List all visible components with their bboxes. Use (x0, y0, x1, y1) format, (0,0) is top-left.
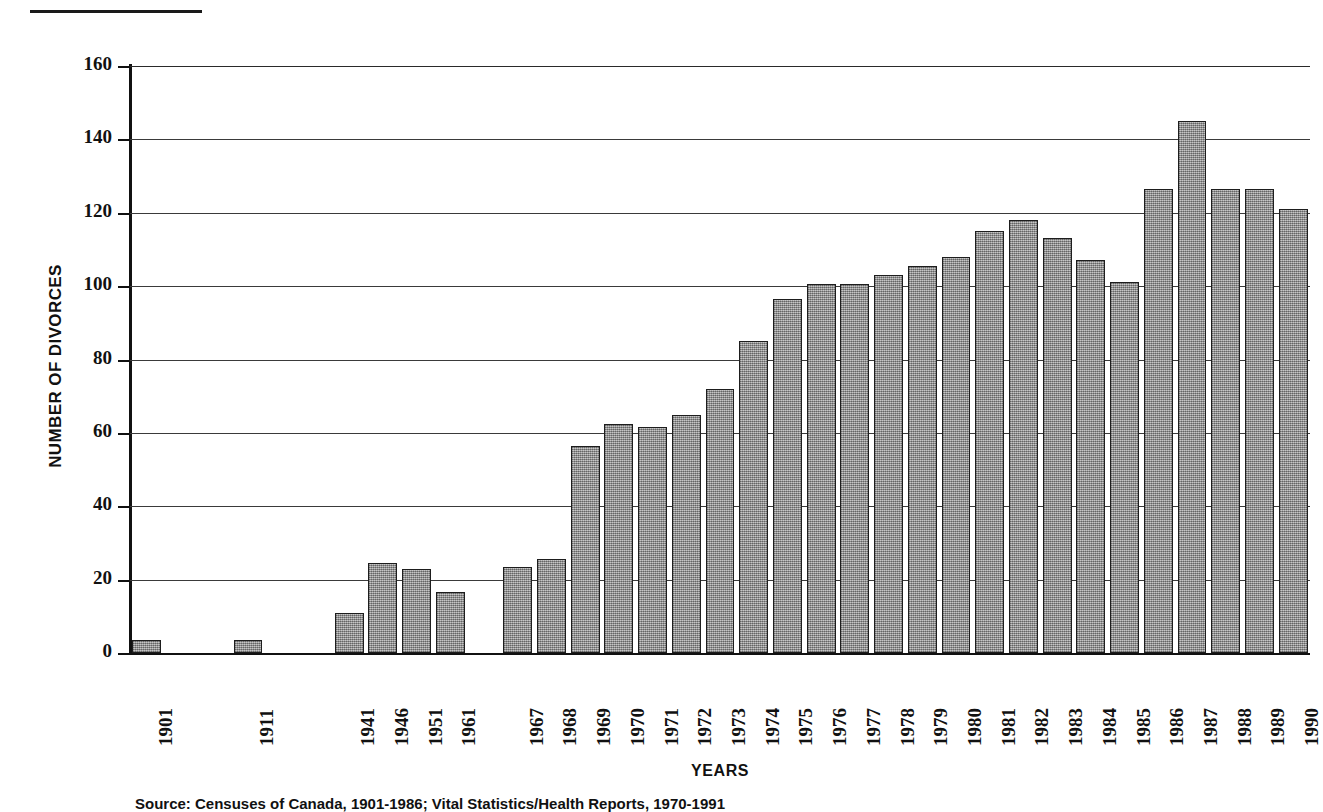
plot-area: 020406080100120140160 (130, 66, 1310, 653)
bar-1987 (1178, 121, 1207, 653)
x-tick-label-1941: 1941 (357, 654, 379, 746)
y-tick-120 (118, 213, 130, 215)
x-tick-label-1911: 1911 (256, 654, 278, 746)
x-tick-label-1901: 1901 (155, 654, 177, 746)
bar-1980 (942, 257, 971, 653)
x-tick-label-1967: 1967 (526, 654, 548, 746)
x-tick-label-1988: 1988 (1234, 654, 1256, 746)
x-tick-label-1985: 1985 (1133, 654, 1155, 746)
x-tick-label-1982: 1982 (1031, 654, 1053, 746)
x-tick-label-1983: 1983 (1065, 654, 1087, 746)
x-tick-label-1976: 1976 (829, 654, 851, 746)
y-tick-80 (118, 360, 130, 362)
x-tick-label-1986: 1986 (1166, 654, 1188, 746)
bar-1978 (874, 275, 903, 653)
bars-group (130, 66, 1310, 653)
bar-1989 (1245, 189, 1274, 653)
bar-1979 (908, 266, 937, 653)
x-tick-label-1971: 1971 (661, 654, 683, 746)
bar-1976 (807, 284, 836, 653)
x-tick-label-1977: 1977 (863, 654, 885, 746)
bar-1982 (1009, 220, 1038, 653)
bar-1972 (672, 415, 701, 653)
bar-1967 (503, 567, 532, 653)
bar-1968 (537, 559, 566, 653)
x-tick-label-1979: 1979 (930, 654, 952, 746)
bar-1971 (638, 427, 667, 653)
bar-1973 (706, 389, 735, 653)
y-tick-label-160: 160 (42, 53, 112, 75)
bar-1946 (368, 563, 397, 653)
y-tick-160 (118, 66, 130, 68)
y-tick-label-60: 60 (42, 420, 112, 442)
divorce-bar-chart-figure: NUMBER OF DIVORCES 020406080100120140160… (0, 0, 1323, 812)
y-tick-label-40: 40 (42, 493, 112, 515)
x-tick-label-1987: 1987 (1200, 654, 1222, 746)
y-tick-0 (118, 653, 130, 655)
bar-1911 (234, 640, 263, 653)
x-tick-label-1989: 1989 (1267, 654, 1289, 746)
bar-1975 (773, 299, 802, 653)
x-tick-label-1968: 1968 (559, 654, 581, 746)
bar-1901 (132, 640, 161, 653)
bar-1988 (1211, 189, 1240, 653)
x-tick-label-1980: 1980 (964, 654, 986, 746)
bar-1983 (1043, 238, 1072, 653)
bar-1974 (739, 341, 768, 653)
x-tick-label-1973: 1973 (728, 654, 750, 746)
x-tick-label-1974: 1974 (762, 654, 784, 746)
y-tick-140 (118, 139, 130, 141)
y-tick-label-100: 100 (42, 273, 112, 295)
source-note: Source: Censuses of Canada, 1901-1986; V… (135, 795, 1285, 812)
x-tick-label-1990: 1990 (1301, 654, 1323, 746)
y-tick-100 (118, 286, 130, 288)
y-tick-label-120: 120 (42, 200, 112, 222)
y-tick-label-0: 0 (42, 640, 112, 662)
top-divider-rule (30, 10, 202, 13)
bar-1961 (436, 592, 465, 653)
bar-1981 (975, 231, 1004, 653)
bar-1990 (1279, 209, 1308, 653)
bar-1969 (571, 446, 600, 653)
bar-1985 (1110, 282, 1139, 653)
y-tick-label-80: 80 (42, 347, 112, 369)
bar-1970 (604, 424, 633, 653)
y-tick-label-140: 140 (42, 126, 112, 148)
x-tick-label-1975: 1975 (795, 654, 817, 746)
x-tick-label-1961: 1961 (458, 654, 480, 746)
y-tick-40 (118, 506, 130, 508)
x-tick-label-1946: 1946 (391, 654, 413, 746)
bar-1984 (1076, 260, 1105, 653)
x-tick-label-1969: 1969 (593, 654, 615, 746)
y-tick-20 (118, 580, 130, 582)
x-tick-labels-group: 1901191119411946195119611967196819691970… (130, 660, 1310, 752)
x-tick-label-1951: 1951 (425, 654, 447, 746)
y-tick-60 (118, 433, 130, 435)
bar-1941 (335, 613, 364, 653)
x-tick-label-1984: 1984 (1099, 654, 1121, 746)
bar-1951 (402, 569, 431, 653)
bar-1977 (840, 284, 869, 653)
y-tick-label-20: 20 (42, 567, 112, 589)
x-tick-label-1972: 1972 (694, 654, 716, 746)
bar-1986 (1144, 189, 1173, 653)
x-axis-title: YEARS (130, 762, 1310, 780)
x-tick-label-1978: 1978 (897, 654, 919, 746)
x-tick-label-1981: 1981 (998, 654, 1020, 746)
x-tick-label-1970: 1970 (627, 654, 649, 746)
